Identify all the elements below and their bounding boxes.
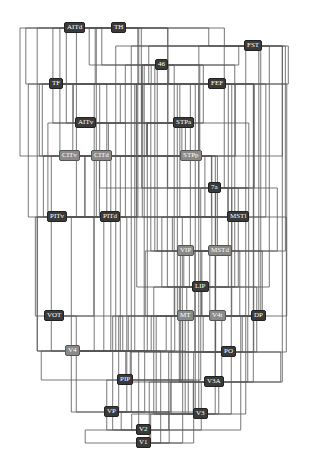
node-aitd: AITd bbox=[64, 22, 85, 33]
node-v4: V4 bbox=[65, 345, 80, 356]
edge-mstd-stpp bbox=[192, 156, 222, 251]
edge-46-fst bbox=[163, 46, 254, 65]
node-tf: TF bbox=[49, 78, 63, 89]
edge-mt-vip bbox=[145, 251, 187, 316]
edge-po-mt bbox=[185, 316, 225, 352]
node-v1: V1 bbox=[136, 437, 151, 448]
node-pitd: PITd bbox=[100, 211, 120, 222]
node-fef: FEF bbox=[208, 78, 226, 89]
edge-stpp-th bbox=[116, 28, 189, 156]
node-v3: V3 bbox=[193, 408, 208, 419]
edge-tf-46 bbox=[59, 65, 163, 84]
node-citv: CITv bbox=[59, 150, 80, 161]
edge-stpa-46 bbox=[166, 65, 203, 123]
edge-layer bbox=[0, 0, 313, 468]
edge-stpa-tf bbox=[54, 84, 182, 123]
edge-46-aitd bbox=[73, 28, 160, 65]
node-v4t: V4t bbox=[209, 310, 226, 321]
edge-po-46 bbox=[144, 65, 225, 352]
node-pip: PIP bbox=[117, 374, 133, 385]
node-v2: V2 bbox=[136, 424, 151, 435]
edge-vot-pitv bbox=[55, 217, 94, 316]
edge-pitv-stpp bbox=[57, 156, 192, 217]
edge-pip-dp bbox=[125, 316, 259, 380]
node-vip: VIP bbox=[177, 245, 194, 256]
node-stpp: STPp bbox=[180, 150, 202, 161]
edge-v2-v3a bbox=[148, 382, 214, 430]
node-th: TH bbox=[111, 22, 126, 33]
edge-mstl-tf bbox=[60, 84, 244, 217]
node-aitv: AITv bbox=[75, 117, 96, 128]
edge-vp-vot bbox=[51, 316, 111, 412]
edge-fst-th bbox=[119, 28, 258, 46]
edge-v3-dp bbox=[171, 316, 256, 414]
edge-po-mstd bbox=[195, 251, 229, 352]
edge-po-mstl bbox=[233, 217, 286, 352]
node-vot: VOT bbox=[44, 310, 64, 321]
edge-vot-pitd bbox=[35, 217, 109, 316]
edge-v1-v2 bbox=[85, 430, 141, 443]
node-citd: CITd bbox=[91, 150, 112, 161]
node-mstl: MSTl bbox=[227, 211, 249, 222]
edge-v3-vip bbox=[190, 251, 231, 414]
edge-v4-citv bbox=[74, 156, 120, 351]
edge-pip-v4 bbox=[41, 351, 122, 380]
edge-tf-aitd bbox=[26, 28, 77, 84]
node-dp: DP bbox=[251, 310, 266, 321]
edge-v3-v4 bbox=[76, 351, 204, 414]
edge-pitv-tf bbox=[28, 84, 59, 217]
node-46: 46 bbox=[155, 59, 168, 70]
edge-vp-v4 bbox=[73, 351, 145, 412]
edge-po-7a bbox=[213, 188, 228, 352]
edge-vip-fef bbox=[151, 84, 219, 251]
node-fst: FST bbox=[244, 40, 262, 51]
edge-vip-7a bbox=[187, 188, 231, 251]
connectivity-diagram: AITdTHFST46TFFEFAITvSTPaCITvCITdSTPp7aPI… bbox=[0, 0, 313, 468]
node-stpa: STPa bbox=[173, 117, 194, 128]
edge-v4-pitv bbox=[37, 217, 68, 351]
edge-fst-aitd bbox=[79, 28, 259, 46]
edge-v4-v4t bbox=[70, 316, 216, 351]
edge-pitd-citv bbox=[68, 156, 111, 217]
node-vp: VP bbox=[104, 406, 119, 417]
edge-citv-tf bbox=[42, 84, 67, 156]
edge-citd-stpa bbox=[105, 123, 185, 156]
edge-tf-th bbox=[58, 28, 122, 84]
node-pitv: PITv bbox=[47, 211, 67, 222]
edge-aitv-th bbox=[66, 28, 116, 123]
node-po: PO bbox=[221, 346, 236, 357]
edge-fef-46 bbox=[163, 65, 214, 84]
edge-v2-pip bbox=[107, 380, 139, 430]
edge-vip-stpp bbox=[191, 156, 212, 251]
node-mt: MT bbox=[177, 310, 194, 321]
edge-aitv-46 bbox=[87, 65, 163, 123]
edge-vp-pitd bbox=[71, 217, 112, 412]
edge-v2-v4 bbox=[73, 351, 144, 430]
edge-mstl-fst bbox=[199, 46, 251, 217]
edge-v3a-v4 bbox=[70, 351, 211, 382]
node-7a: 7a bbox=[208, 182, 221, 193]
edge-7a-fst bbox=[214, 46, 254, 188]
edge-vp-fef bbox=[112, 84, 218, 412]
edge-aitv-aitd bbox=[53, 28, 83, 123]
node-mstd: MSTd bbox=[208, 245, 232, 256]
edge-mt-mstl bbox=[182, 217, 239, 316]
node-v3a: V3A bbox=[204, 376, 224, 387]
edge-po-vip bbox=[190, 251, 230, 352]
edge-lip-tf bbox=[60, 84, 203, 287]
node-lip: LIP bbox=[192, 281, 209, 292]
edge-v3a-lip bbox=[179, 287, 209, 382]
